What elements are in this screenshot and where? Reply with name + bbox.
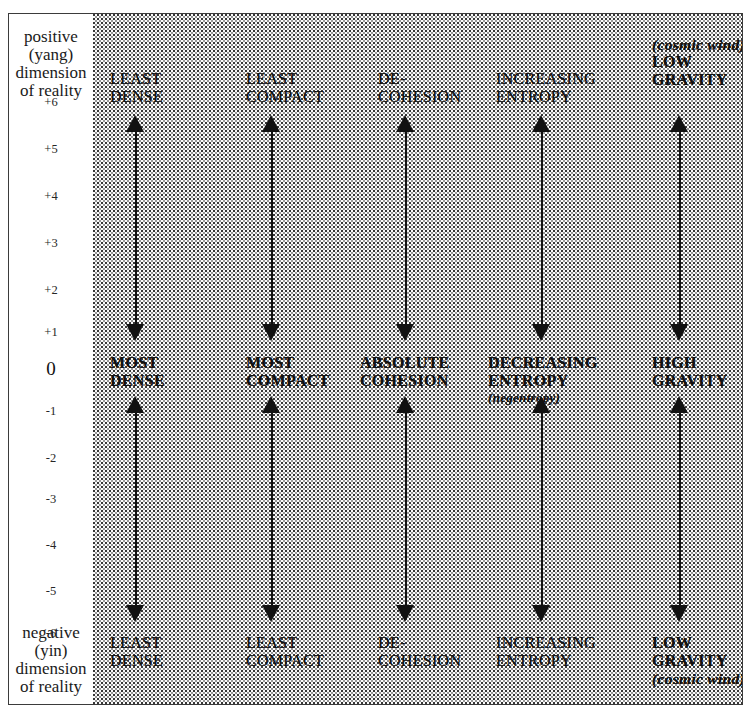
arrow-cohesion-upper-head-up (396, 115, 414, 132)
arrow-compactness-upper (259, 115, 285, 341)
axis-tick-minus3: -3 (9, 492, 93, 507)
arrow-cohesion-lower-shaft (405, 409, 407, 609)
column-entropy-middle-sub: (negentropy) (488, 390, 652, 405)
axis-tick-zero: 0 (9, 358, 93, 380)
column-density-bottom-label: LEAST DENSE (104, 634, 240, 670)
arrow-entropy-upper (529, 115, 555, 341)
arrow-compactness-upper-head-up (262, 115, 280, 132)
axis-caption-negative-line-2: (yin) (9, 642, 93, 660)
arrow-density-lower-head-up (126, 396, 144, 413)
axis-tick-plus5: +5 (9, 142, 93, 157)
axis-caption-negative: negative (yin) dimension of reality (9, 624, 93, 696)
column-entropy-middle-line-2: ENTROPY (488, 372, 652, 390)
column-cohesion-top-line-2: COHESION (378, 88, 508, 106)
column-gravity-middle-line-1: HIGH (652, 354, 743, 372)
arrow-compactness-lower (259, 396, 285, 622)
column-gravity-bottom-label: LOW GRAVITY (cosmic wind) (646, 634, 743, 687)
arrow-entropy-lower (529, 396, 555, 622)
column-density-top-label: LEAST DENSE (104, 70, 240, 106)
arrow-density-upper-head-down (126, 324, 144, 341)
arrow-entropy-upper-head-down (532, 324, 550, 341)
column-entropy-top-line-2: ENTROPY (496, 88, 650, 106)
column-density-top-line-1: LEAST (110, 70, 240, 88)
column-density-top-line-2: DENSE (110, 88, 240, 106)
column-entropy-top-label: INCREASING ENTROPY (490, 70, 650, 106)
arrow-gravity-lower-head-down (670, 605, 688, 622)
arrow-cohesion-lower-head-down (396, 605, 414, 622)
column-entropy-bottom-line-1: INCREASING (496, 634, 650, 652)
arrow-gravity-lower-head-up (670, 396, 688, 413)
arrow-entropy-upper-head-up (532, 115, 550, 132)
axis-tick-plus1: +1 (9, 325, 93, 340)
column-gravity-middle-line-2: GRAVITY (652, 372, 743, 390)
axis-caption-positive-line-3: dimension (9, 64, 93, 82)
column-cohesion-bottom-line-1: DE- (378, 634, 508, 652)
axis-caption-positive: positive (yang) dimension of reality (9, 28, 93, 100)
axis-caption-positive-line-1: positive (9, 28, 93, 46)
arrow-compactness-lower-shaft (271, 409, 273, 609)
column-density-middle-label: MOST DENSE (104, 354, 240, 390)
axis-tick-plus6: +6 (9, 95, 93, 110)
axis-tick-minus1: -1 (9, 404, 93, 419)
arrow-gravity-lower (667, 396, 693, 622)
axis-caption-negative-line-4: of reality (9, 678, 93, 696)
column-cohesion-bottom-line-2: COHESION (378, 652, 508, 670)
arrow-gravity-upper-shaft (679, 128, 681, 328)
figure-frame: positive (yang) dimension of reality +6 … (8, 13, 743, 705)
arrow-cohesion-lower-head-up (396, 396, 414, 413)
column-entropy-middle-label: DECREASING ENTROPY (negentropy) (482, 354, 652, 405)
axis-tick-plus2: +2 (9, 283, 93, 298)
column-compactness-bottom-line-1: LEAST (246, 634, 376, 652)
arrow-entropy-lower-head-up (532, 396, 550, 413)
arrow-density-upper-head-up (126, 115, 144, 132)
column-entropy-top-line-1: INCREASING (496, 70, 650, 88)
column-gravity-top-line-2: GRAVITY (652, 71, 743, 89)
column-gravity-bottom-line-2: GRAVITY (652, 652, 743, 670)
column-gravity: (cosmic wind) LOW GRAVITY HIGH GRAVITY L… (646, 14, 743, 704)
arrow-compactness-lower-head-up (262, 396, 280, 413)
column-gravity-bottom-parenthetical: (cosmic wind) (652, 670, 743, 687)
arrow-cohesion-upper (393, 115, 419, 341)
column-gravity-bottom-line-1: LOW (652, 634, 743, 652)
arrow-cohesion-upper-shaft (405, 128, 407, 328)
arrow-gravity-upper-head-up (670, 115, 688, 132)
column-compactness-top-line-2: COMPACT (246, 88, 376, 106)
axis-caption-negative-line-1: negative (9, 624, 93, 642)
column-cohesion-bottom-label: DE- COHESION (372, 634, 508, 670)
column-compactness-top-line-1: LEAST (246, 70, 376, 88)
column-entropy: INCREASING ENTROPY DECREASING ENTROPY (n… (504, 14, 640, 704)
arrow-entropy-upper-shaft (541, 128, 543, 328)
column-entropy-bottom-line-2: ENTROPY (496, 652, 650, 670)
arrow-density-upper (123, 115, 149, 341)
arrow-density-lower-head-down (126, 605, 144, 622)
column-entropy-bottom-label: INCREASING ENTROPY (490, 634, 650, 670)
column-gravity-top-line-1: LOW (652, 53, 743, 71)
arrow-density-lower (123, 396, 149, 622)
arrow-cohesion-lower (393, 396, 419, 622)
column-cohesion-top-line-1: DE- (378, 70, 508, 88)
column-entropy-middle-line-1: DECREASING (488, 354, 652, 372)
axis-tick-plus3: +3 (9, 236, 93, 251)
axis-tick-plus4: +4 (9, 189, 93, 204)
column-gravity-top-label: (cosmic wind) LOW GRAVITY (646, 36, 743, 89)
column-compactness-bottom-line-2: COMPACT (246, 652, 376, 670)
axis-tick-minus5: -5 (9, 584, 93, 599)
arrow-gravity-upper-head-down (670, 324, 688, 341)
axis-tick-minus4: -4 (9, 538, 93, 553)
arrow-density-upper-shaft (135, 128, 137, 328)
column-gravity-top-parenthetical: (cosmic wind) (652, 36, 743, 53)
column-density-bottom-line-2: DENSE (110, 652, 240, 670)
figure-canvas: positive (yang) dimension of reality +6 … (0, 0, 750, 724)
column-compactness-top-label: LEAST COMPACT (240, 70, 376, 106)
axis-caption-positive-line-2: (yang) (9, 46, 93, 64)
column-cohesion-top-label: DE- COHESION (372, 70, 508, 106)
arrow-density-lower-shaft (135, 409, 137, 609)
axis-caption-negative-line-3: dimension (9, 660, 93, 678)
column-gravity-middle-label: HIGH GRAVITY (646, 354, 743, 390)
column-compactness-bottom-label: LEAST COMPACT (240, 634, 376, 670)
arrow-gravity-lower-shaft (679, 409, 681, 609)
axis-tick-minus2: -2 (9, 451, 93, 466)
arrow-compactness-lower-head-down (262, 605, 280, 622)
column-density-bottom-line-1: LEAST (110, 634, 240, 652)
arrow-gravity-upper (667, 115, 693, 341)
